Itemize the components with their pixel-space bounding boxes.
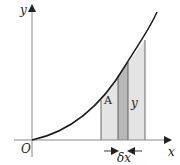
x-axis-label: x [168, 145, 175, 159]
point-a-label: A [103, 94, 113, 107]
area-under-curve-diagram: y x O A y δx [0, 0, 180, 165]
y-axis-label: y [19, 3, 27, 17]
origin-label: O [21, 142, 31, 156]
strip-width-label: δx [117, 151, 131, 165]
strip-height-label: y [130, 96, 138, 110]
